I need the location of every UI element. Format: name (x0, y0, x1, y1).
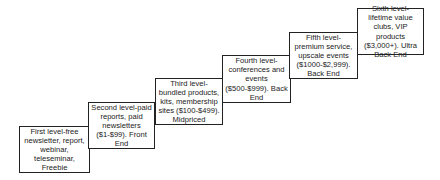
step-4-back-end: Fourth level-conferences and events ($50… (222, 55, 291, 103)
step-6-label: Sixth level-lifetime value clubs, VIP pr… (360, 4, 421, 59)
step-3-midpriced: Third level-bundled products, kits, memb… (155, 78, 223, 125)
step-2-label: Second level-paid reports, paid newslett… (91, 103, 152, 149)
step-6-ultra-back-end: Sixth level-lifetime value clubs, VIP pr… (357, 8, 424, 55)
step-5-label: Fifth level-premium service, upscale eve… (292, 33, 355, 79)
step-2-front-end: Second level-paid reports, paid newslett… (88, 102, 155, 149)
step-4-label: Fourth level-conferences and events ($50… (225, 56, 288, 102)
step-5-back-end: Fifth level-premium service, upscale eve… (289, 32, 358, 79)
step-1-free: First level-free newsletter, report, web… (19, 126, 90, 173)
step-3-label: Third level-bundled products, kits, memb… (158, 79, 220, 125)
step-1-label: First level-free newsletter, report, web… (22, 127, 87, 173)
